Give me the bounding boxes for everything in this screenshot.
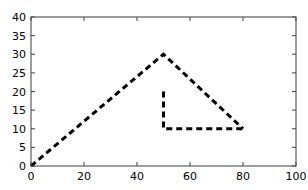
y-tick-label: 5 bbox=[19, 141, 26, 154]
y-tick-label: 10 bbox=[12, 123, 26, 136]
y-tick-label: 30 bbox=[12, 48, 26, 61]
y-tick-label: 20 bbox=[12, 86, 26, 99]
x-tick-label: 40 bbox=[130, 170, 144, 183]
figure: 0510152025303540 020406080100 bbox=[0, 0, 308, 190]
x-tick-label: 60 bbox=[183, 170, 197, 183]
x-tick-label: 20 bbox=[77, 170, 91, 183]
x-tick-label: 0 bbox=[28, 170, 35, 183]
x-axis-tick-labels: 020406080100 bbox=[28, 170, 307, 183]
y-tick-label: 35 bbox=[12, 30, 26, 43]
y-tick-label: 25 bbox=[12, 67, 26, 80]
y-tick-label: 15 bbox=[12, 104, 26, 117]
y-axis-tick-labels: 0510152025303540 bbox=[12, 11, 26, 173]
x-tick-label: 100 bbox=[286, 170, 307, 183]
x-tick-label: 80 bbox=[236, 170, 250, 183]
y-tick-label: 0 bbox=[19, 160, 26, 173]
y-tick-label: 40 bbox=[12, 11, 26, 24]
chart-plot: 0510152025303540 020406080100 bbox=[0, 0, 308, 190]
